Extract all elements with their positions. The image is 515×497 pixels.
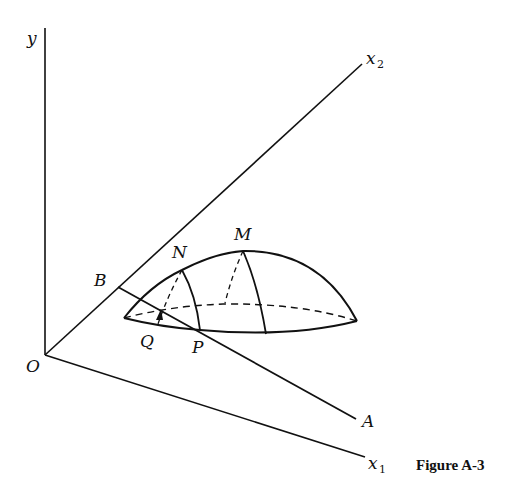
label-N: N [171,242,188,262]
label-x1-sub: 1 [379,463,386,476]
label-x2: x [366,48,376,68]
meridian-N-P [182,270,200,330]
x1-axis [45,355,365,457]
label-y: y [26,28,37,48]
label-M: M [233,224,252,244]
line-BA [118,287,356,419]
label-P: P [191,337,204,357]
label-A: A [360,411,374,431]
dashed-M-down [225,251,243,303]
label-Q: Q [140,331,154,351]
label-x2-sub: 2 [377,58,384,71]
x2-axis [45,64,362,355]
label-B: B [93,270,107,290]
label-O: O [26,356,40,376]
label-x1: x [368,453,378,473]
meridian-M [243,251,266,334]
figure-canvas: y x 2 x 1 O B N M Q P A Figure A-3 [0,0,515,497]
figure-caption: Figure A-3 [416,457,484,473]
